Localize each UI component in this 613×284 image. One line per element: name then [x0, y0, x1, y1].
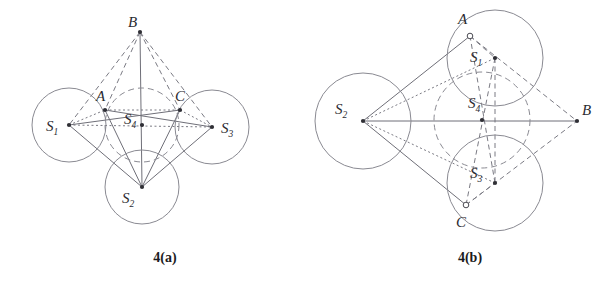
circle-s2-center-dot [140, 185, 144, 189]
edge-s2-c [363, 121, 466, 205]
point-b-marker [575, 119, 579, 123]
fig-4b-caption: 4(b) [458, 250, 482, 266]
circle-s4-center-dot [140, 123, 144, 127]
circle-s1-label: S1 [46, 118, 58, 137]
circle-s2-label-subscript: 2 [130, 199, 135, 209]
circle-s4-label-subscript: 4 [132, 120, 137, 130]
point-b-marker [138, 30, 142, 34]
figure-root: S1S2S3S4ABC4(a) S2S1S3S4ABC4(b) [0, 0, 613, 284]
circle-s2-center-dot [361, 119, 365, 123]
circle-s2-label-subscript: 2 [343, 110, 348, 120]
circle-s1-label-subscript: 1 [478, 58, 483, 68]
circle-s3-label: S3 [470, 165, 483, 184]
geometry-figure-canvas: S1S2S3S4ABC4(a) S2S1S3S4ABC4(b) [0, 0, 613, 284]
circle-s3-center-dot [493, 181, 497, 185]
edge-c-s3 [466, 183, 495, 205]
circle-s2-label: S2 [335, 101, 348, 120]
edge-s2-a [363, 36, 470, 121]
circle-s1-center-dot [67, 123, 71, 127]
figure-4a: S1S2S3S4ABC4(a) [32, 14, 249, 266]
edge-s1-s2 [69, 125, 142, 187]
circle-s4-label: S4 [468, 95, 481, 114]
fig-4a-caption: 4(a) [153, 250, 177, 266]
edge-b-a [105, 32, 140, 110]
point-b-label: B [128, 14, 137, 30]
point-c-label: C [456, 214, 467, 230]
circle-s3-label-subscript: 3 [477, 174, 483, 184]
point-c-marker [463, 202, 469, 208]
circle-s1-center-dot [493, 56, 497, 60]
point-c-label: C [175, 88, 186, 104]
point-a-label: A [95, 88, 106, 104]
circle-s4-center-dot [480, 118, 484, 122]
circle-s1-label: S1 [470, 49, 482, 68]
point-b-label: B [582, 102, 591, 118]
circle-s3-label: S3 [221, 120, 234, 139]
circle-s4-label-subscript: 4 [476, 104, 481, 114]
figure-4b: S2S1S3S4ABC4(b) [315, 10, 591, 266]
circle-s1-label-subscript: 1 [54, 127, 59, 137]
edge-b-s3 [140, 32, 212, 127]
circle-s3-center-dot [210, 125, 214, 129]
circle-s4-label: S4 [124, 111, 137, 130]
point-a-label: A [457, 11, 468, 27]
edge-b-c [140, 32, 180, 110]
edge-s2-c [142, 110, 180, 187]
point-c-marker [178, 108, 182, 112]
circle-s2-label: S2 [122, 190, 135, 209]
circle-s3-label-subscript: 3 [228, 129, 234, 139]
edge-a-b [470, 36, 577, 121]
point-a-marker [103, 108, 107, 112]
point-a-marker [467, 33, 473, 39]
